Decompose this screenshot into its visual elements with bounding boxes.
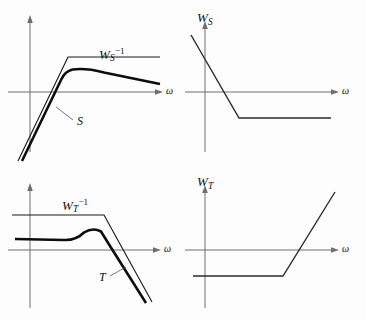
- label-wt-inverse: WT−1: [62, 198, 88, 215]
- curve-ws: [191, 35, 331, 118]
- label-wt-inverse-base: W: [62, 198, 73, 213]
- label-wt-inverse-sup: −1: [78, 197, 88, 207]
- x-axis-arrowhead: [331, 89, 339, 95]
- chart-svg-top-left: [0, 0, 183, 160]
- chart-svg-bottom-left: [0, 160, 183, 320]
- chart-panel-bottom-left: WT−1 T ω: [0, 160, 183, 320]
- label-ws-inverse-sup: −1: [115, 46, 125, 56]
- y-axis-label-ws-sub: S: [208, 17, 213, 27]
- y-axis-arrowhead: [27, 15, 33, 23]
- leader-line-s: [56, 107, 73, 120]
- y-axis-label-wt-base: W: [197, 174, 208, 189]
- x-axis-arrowhead: [331, 247, 339, 253]
- figure-canvas: WS−1 S ω WS ω: [0, 0, 366, 320]
- y-axis-label-ws: WS: [197, 11, 213, 27]
- label-s: S: [77, 115, 83, 127]
- curve-wt: [193, 192, 335, 276]
- label-t: T: [99, 271, 106, 283]
- chart-panel-top-right: WS ω: [183, 0, 366, 160]
- x-axis-arrowhead: [153, 247, 161, 253]
- curve-s: [22, 69, 160, 161]
- x-axis-arrowhead: [155, 89, 163, 95]
- chart-panel-top-left: WS−1 S ω: [0, 0, 183, 160]
- y-axis-label-wt-sub: T: [208, 181, 213, 191]
- x-axis-label-omega: ω: [342, 244, 349, 254]
- curve-wt-inverse: [12, 215, 152, 302]
- x-axis-label-omega: ω: [164, 244, 171, 254]
- x-axis-label-omega: ω: [166, 86, 173, 96]
- label-ws-inverse-sub: S: [110, 53, 115, 63]
- curve-ws-inverse: [18, 57, 160, 161]
- leader-line-t: [110, 267, 126, 276]
- curve-t: [15, 229, 146, 303]
- chart-panel-bottom-right: WT ω: [183, 160, 366, 320]
- label-ws-inverse-base: W: [99, 47, 110, 62]
- y-axis-arrowhead: [27, 183, 33, 191]
- y-axis-label-ws-base: W: [197, 10, 208, 25]
- x-axis-label-omega: ω: [342, 86, 349, 96]
- label-ws-inverse: WS−1: [99, 47, 124, 64]
- y-axis-label-wt: WT: [197, 175, 213, 191]
